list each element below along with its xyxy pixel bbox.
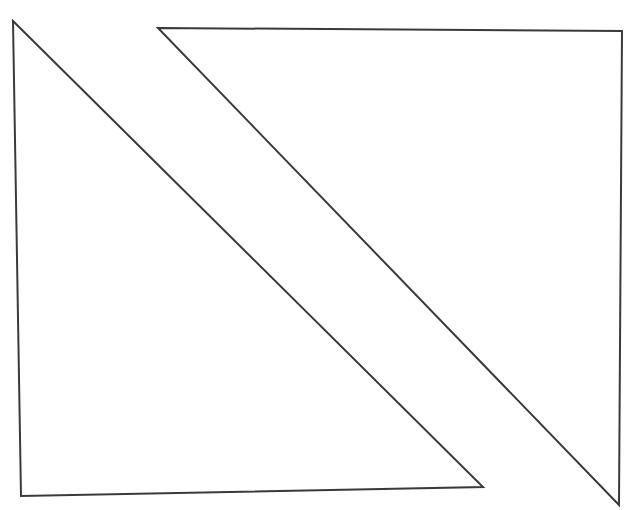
left-triangle bbox=[13, 21, 483, 496]
diagram-canvas bbox=[0, 0, 631, 510]
right-triangle bbox=[158, 28, 622, 505]
